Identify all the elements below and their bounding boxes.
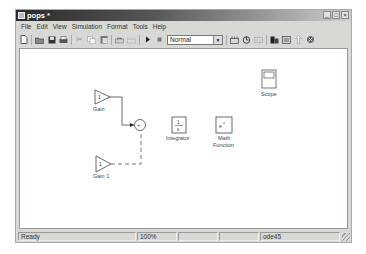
app-icon bbox=[18, 12, 25, 19]
separator bbox=[139, 35, 140, 45]
integrator-label: Integrator bbox=[166, 135, 190, 141]
svg-text:1: 1 bbox=[98, 94, 101, 100]
print-icon[interactable] bbox=[59, 35, 68, 44]
menu-bar: File Edit View Simulation Format Tools H… bbox=[16, 21, 351, 31]
separator bbox=[111, 35, 112, 45]
undo-icon[interactable] bbox=[115, 35, 124, 44]
menu-edit[interactable]: Edit bbox=[36, 23, 47, 30]
status-bar: Ready 100% ode45 bbox=[16, 231, 351, 242]
menu-help[interactable]: Help bbox=[153, 23, 166, 30]
status-zoom: 100% bbox=[137, 232, 177, 241]
update-icon[interactable] bbox=[242, 35, 251, 44]
cut-icon[interactable]: ✂ bbox=[75, 35, 84, 44]
model-canvas[interactable]: 1 + 1 1 s e u Gain Gain 1 In bbox=[19, 48, 348, 229]
status-cell-4 bbox=[219, 232, 259, 241]
gain1-label: Gain 1 bbox=[93, 173, 109, 179]
close-button[interactable]: × bbox=[341, 11, 349, 19]
window-title: pops * bbox=[27, 11, 50, 20]
simulation-mode-value: Normal bbox=[170, 36, 191, 43]
status-state: Ready bbox=[18, 232, 136, 241]
build-icon[interactable] bbox=[230, 35, 239, 44]
minimize-button[interactable]: _ bbox=[323, 11, 331, 19]
svg-text:1: 1 bbox=[99, 161, 102, 167]
menu-tools[interactable]: Tools bbox=[133, 23, 148, 30]
simulation-mode-select[interactable]: Normal ▼ bbox=[167, 35, 223, 45]
menu-simulation[interactable]: Simulation bbox=[72, 23, 102, 30]
separator bbox=[31, 35, 32, 45]
up-arrow-icon[interactable] bbox=[294, 35, 303, 44]
status-solver: ode45 bbox=[260, 232, 340, 241]
stop-icon[interactable] bbox=[155, 35, 164, 44]
resize-grip-icon[interactable] bbox=[342, 233, 350, 241]
menu-file[interactable]: File bbox=[21, 23, 31, 30]
new-icon[interactable] bbox=[19, 35, 28, 44]
chevron-down-icon[interactable]: ▼ bbox=[213, 36, 222, 44]
library-icon[interactable] bbox=[254, 35, 263, 44]
separator bbox=[226, 35, 227, 45]
gain-label: Gain bbox=[93, 106, 105, 112]
toolbar: ✂ Normal ▼ bbox=[16, 32, 351, 47]
title-bar[interactable]: pops * _ □ × bbox=[16, 10, 351, 21]
play-icon[interactable] bbox=[143, 35, 152, 44]
model-window: pops * _ □ × File Edit View Simulation F… bbox=[15, 9, 352, 243]
model-browser-icon[interactable] bbox=[270, 35, 279, 44]
save-icon[interactable] bbox=[47, 35, 56, 44]
open-icon[interactable] bbox=[35, 35, 44, 44]
debug-icon[interactable] bbox=[306, 35, 315, 44]
separator bbox=[71, 35, 72, 45]
separator bbox=[266, 35, 267, 45]
scope-label: Scope bbox=[261, 91, 277, 97]
paste-icon[interactable] bbox=[99, 35, 108, 44]
math-function-label-1: Math bbox=[218, 135, 230, 141]
copy-icon[interactable] bbox=[87, 35, 96, 44]
status-cell-3 bbox=[178, 232, 218, 241]
maximize-button[interactable]: □ bbox=[332, 11, 340, 19]
math-function-label-2: Function bbox=[213, 142, 234, 148]
svg-text:+: + bbox=[138, 123, 141, 128]
menu-format[interactable]: Format bbox=[107, 23, 128, 30]
svg-text:e: e bbox=[219, 123, 222, 129]
menu-view[interactable]: View bbox=[53, 23, 67, 30]
explorer-icon[interactable] bbox=[282, 35, 291, 44]
redo-icon[interactable] bbox=[127, 35, 136, 44]
svg-text:u: u bbox=[223, 121, 225, 125]
